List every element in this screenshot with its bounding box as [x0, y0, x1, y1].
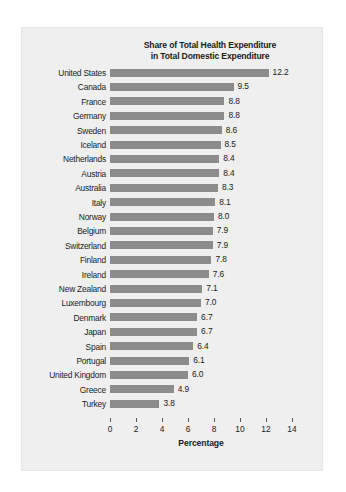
bar-chart-plot-area: United States12.2Canada9.5France8.8Germa…	[22, 66, 322, 418]
x-axis-tick-label: 12	[256, 424, 276, 434]
bar-category-label: France	[22, 96, 106, 108]
bar-row: Canada9.5	[22, 80, 322, 94]
bar-category-label: Portugal	[22, 355, 106, 367]
bar	[110, 112, 224, 120]
x-axis-tick-label: 4	[152, 424, 172, 434]
bar	[110, 241, 213, 249]
bar-row: Sweden8.6	[22, 124, 322, 138]
chart-title: Share of Total Health Expenditure in Tot…	[110, 40, 310, 62]
bar	[110, 141, 221, 149]
bar-value-label: 6.1	[193, 355, 204, 366]
bar-category-label: Norway	[22, 211, 106, 223]
bar	[110, 357, 189, 365]
x-axis-tick-label: 6	[178, 424, 198, 434]
bar-row: United Kingdom6.0	[22, 368, 322, 382]
bar-category-label: Netherlands	[22, 153, 106, 165]
bar-row: Switzerland7.9	[22, 239, 322, 253]
bar-value-label: 6.0	[192, 369, 203, 380]
bar	[110, 83, 234, 91]
bar-row: Denmark6.7	[22, 311, 322, 325]
bar-category-label: New Zealand	[22, 283, 106, 295]
bar-category-label: Finland	[22, 254, 106, 266]
bar-category-label: Japan	[22, 326, 106, 338]
bar-row: Ireland7.6	[22, 268, 322, 282]
bar	[110, 313, 197, 321]
bar	[110, 270, 209, 278]
bar	[110, 126, 222, 134]
bar	[110, 198, 215, 206]
bar	[110, 299, 201, 307]
bar	[110, 400, 159, 408]
bar-row: Turkey3.8	[22, 397, 322, 411]
x-axis-tick-mark	[136, 418, 137, 422]
bar-category-label: Iceland	[22, 139, 106, 151]
bar-category-label: Luxembourg	[22, 297, 106, 309]
x-axis-tick-mark	[110, 418, 111, 422]
bar	[110, 155, 219, 163]
bar-category-label: Ireland	[22, 269, 106, 281]
bar-row: United States12.2	[22, 66, 322, 80]
bar-value-label: 6.4	[197, 341, 208, 352]
bar	[110, 371, 188, 379]
bar-value-label: 7.9	[217, 240, 228, 251]
bar-value-label: 7.1	[206, 283, 217, 294]
bar-row: Iceland8.5	[22, 138, 322, 152]
bar-row: Greece4.9	[22, 383, 322, 397]
x-axis-tick-label: 14	[282, 424, 302, 434]
x-axis-tick-mark	[188, 418, 189, 422]
bar-row: Norway8.0	[22, 210, 322, 224]
bar-value-label: 8.4	[223, 153, 234, 164]
bar-value-label: 7.9	[217, 225, 228, 236]
x-axis-title: Percentage	[110, 438, 292, 448]
bar-value-label: 7.8	[215, 254, 226, 265]
bar-row: New Zealand7.1	[22, 282, 322, 296]
bar-value-label: 12.2	[273, 67, 289, 78]
bar	[110, 385, 174, 393]
bar-category-label: Spain	[22, 341, 106, 353]
bar-value-label: 7.0	[205, 297, 216, 308]
bar-value-label: 8.1	[219, 197, 230, 208]
bar-category-label: Greece	[22, 384, 106, 396]
x-axis-tick-mark	[240, 418, 241, 422]
bar-category-label: Denmark	[22, 312, 106, 324]
bar-value-label: 8.8	[228, 110, 239, 121]
bar-row: Belgium7.9	[22, 224, 322, 238]
bar-row: Finland7.8	[22, 253, 322, 267]
bar-value-label: 4.9	[178, 384, 189, 395]
bar	[110, 213, 214, 221]
x-axis-tick-label: 2	[126, 424, 146, 434]
bar-category-label: Austria	[22, 168, 106, 180]
bar-row: Spain6.4	[22, 340, 322, 354]
bar-row: Japan6.7	[22, 325, 322, 339]
bar-value-label: 6.7	[201, 312, 212, 323]
bar	[110, 342, 193, 350]
bar-category-label: Switzerland	[22, 240, 106, 252]
bar-value-label: 8.0	[218, 211, 229, 222]
bar-row: Luxembourg7.0	[22, 296, 322, 310]
x-axis-tick-mark	[266, 418, 267, 422]
bar	[110, 227, 213, 235]
bar-value-label: 3.8	[163, 398, 174, 409]
bar-category-label: Germany	[22, 110, 106, 122]
bar-category-label: Canada	[22, 81, 106, 93]
bar	[110, 184, 218, 192]
x-axis-tick-mark	[292, 418, 293, 422]
bar-category-label: Turkey	[22, 398, 106, 410]
bar-category-label: United States	[22, 67, 106, 79]
bar	[110, 169, 219, 177]
bar-row: Austria8.4	[22, 167, 322, 181]
bar-value-label: 8.3	[222, 182, 233, 193]
bar-row: Germany8.8	[22, 109, 322, 123]
x-axis-tick-label: 8	[204, 424, 224, 434]
bar-value-label: 7.6	[213, 269, 224, 280]
bar-category-label: Australia	[22, 182, 106, 194]
bar-category-label: Sweden	[22, 125, 106, 137]
x-axis-tick-mark	[214, 418, 215, 422]
bar-row: Australia8.3	[22, 181, 322, 195]
x-axis-tick-mark	[162, 418, 163, 422]
chart-title-line-1: Share of Total Health Expenditure	[110, 40, 310, 51]
bar-row: Netherlands8.4	[22, 152, 322, 166]
x-axis: Percentage 02468101214	[22, 418, 322, 470]
bar-row: France8.8	[22, 95, 322, 109]
bar-value-label: 8.4	[223, 168, 234, 179]
